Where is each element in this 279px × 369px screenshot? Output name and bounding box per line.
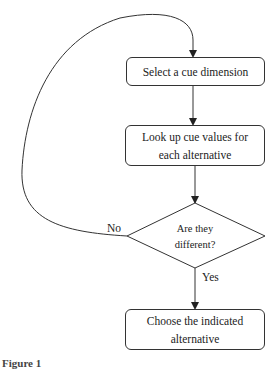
step-look-up-values: Look up cue values for each alternative (125, 125, 265, 166)
figure-caption: Figure 1 (2, 357, 41, 369)
yes-label: Yes (202, 271, 219, 283)
step-select-cue-label: Select a cue dimension (143, 63, 249, 81)
step-choose-alternative: Choose the indicated alternative (125, 309, 265, 350)
no-label: No (107, 222, 121, 234)
step-select-cue: Select a cue dimension (126, 57, 265, 86)
step-look-up-values-label: Look up cue values for each alternative (136, 128, 254, 164)
step-choose-alternative-label: Choose the indicated alternative (140, 312, 250, 348)
decision-label: Are they different? (160, 221, 230, 253)
